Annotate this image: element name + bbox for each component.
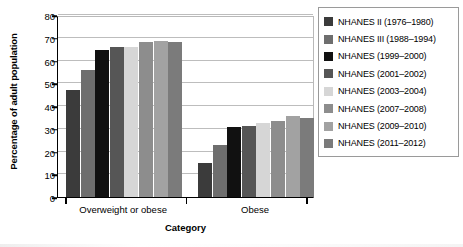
- x-tick-mark: [186, 198, 188, 204]
- bar: [124, 47, 138, 197]
- legend-item-label: NHANES III (1988–1994): [338, 34, 436, 44]
- y-tick-label: 50: [0, 79, 55, 90]
- bar-group: [198, 17, 314, 197]
- y-tick-label: 20: [0, 147, 55, 158]
- bar: [81, 70, 95, 197]
- legend-swatch-icon: [324, 17, 333, 26]
- y-tick-label: 60: [0, 56, 55, 67]
- bar: [300, 118, 314, 197]
- bar: [242, 126, 256, 197]
- legend-item-label: NHANES (2001–2002): [338, 69, 426, 79]
- bar: [154, 41, 168, 197]
- legend-item-label: NHANES (2007–2008): [338, 104, 426, 114]
- y-tick-label: 70: [0, 33, 55, 44]
- legend-item[interactable]: NHANES (2003–2004): [324, 83, 458, 100]
- legend-item[interactable]: NHANES III (1988–1994): [324, 30, 458, 47]
- bar: [256, 123, 270, 197]
- bar-group: [66, 17, 182, 197]
- legend-item-label: NHANES (2003–2004): [338, 86, 426, 96]
- x-tick-label: Overweight or obese: [79, 204, 167, 215]
- legend-item-label: NHANES II (1976–1980): [338, 17, 433, 27]
- legend-item-label: NHANES (2009–2010): [338, 121, 426, 131]
- legend-swatch-icon: [324, 35, 333, 44]
- legend-item[interactable]: NHANES (2001–2002): [324, 65, 458, 82]
- gridline: [58, 14, 313, 15]
- x-tick-mark: [65, 198, 67, 204]
- legend-swatch-icon: [324, 52, 333, 61]
- legend-item[interactable]: NHANES (2009–2010): [324, 117, 458, 134]
- bar: [227, 127, 241, 197]
- y-tick-label: 80: [0, 11, 55, 22]
- bar: [286, 116, 300, 197]
- legend-item[interactable]: NHANES II (1976–1980): [324, 13, 458, 30]
- legend-swatch-icon: [324, 69, 333, 78]
- legend-swatch-icon: [324, 87, 333, 96]
- bar: [95, 50, 109, 197]
- x-axis-title: Category: [57, 222, 314, 233]
- legend-item[interactable]: NHANES (2007–2008): [324, 100, 458, 117]
- legend-item-label: NHANES (1999–2000): [338, 51, 426, 61]
- legend-item-label: NHANES (2011–2012): [338, 138, 426, 148]
- x-tick-label: Obese: [241, 204, 269, 215]
- x-tick-mark: [306, 198, 308, 204]
- bar: [139, 42, 153, 197]
- y-tick-label: 30: [0, 124, 55, 135]
- bar: [168, 42, 182, 197]
- bar: [213, 145, 227, 197]
- legend-swatch-icon: [324, 122, 333, 131]
- bar: [66, 90, 80, 197]
- legend-swatch-icon: [324, 104, 333, 113]
- legend-swatch-icon: [324, 139, 333, 148]
- bar: [198, 163, 212, 197]
- legend: NHANES II (1976–1980)NHANES III (1988–19…: [318, 7, 459, 157]
- legend-item[interactable]: NHANES (2011–2012): [324, 135, 458, 152]
- plot-area: [57, 16, 314, 198]
- bar: [110, 47, 124, 197]
- bar: [271, 121, 285, 197]
- y-tick-label: 40: [0, 102, 55, 113]
- y-tick-label: 0: [0, 193, 55, 204]
- chart-figure: Percentage of adult population 010203040…: [0, 0, 463, 247]
- legend-item[interactable]: NHANES (1999–2000): [324, 48, 458, 65]
- y-tick-label: 10: [0, 170, 55, 181]
